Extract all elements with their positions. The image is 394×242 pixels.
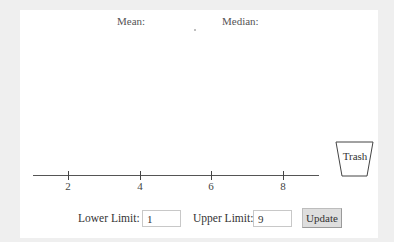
- lower-limit-input[interactable]: [142, 210, 181, 227]
- lower-limit-label: Lower Limit:: [78, 212, 140, 224]
- trash-bin[interactable]: Trash: [335, 141, 375, 178]
- tick-label-2: 2: [58, 180, 78, 192]
- median-label: Median:: [222, 15, 259, 27]
- stray-dot: [194, 29, 196, 31]
- number-line-panel: [20, 10, 378, 238]
- tick-8: [283, 171, 284, 180]
- tick-label-4: 4: [130, 180, 150, 192]
- tick-6: [211, 171, 212, 180]
- trash-label: Trash: [335, 150, 375, 162]
- update-button[interactable]: Update: [302, 208, 342, 228]
- tick-2: [68, 171, 69, 180]
- upper-limit-input[interactable]: [253, 210, 292, 227]
- tick-label-8: 8: [273, 180, 293, 192]
- tick-4: [140, 171, 141, 180]
- upper-limit-label: Upper Limit:: [193, 212, 253, 224]
- tick-label-6: 6: [201, 180, 221, 192]
- axis-line: [33, 175, 319, 176]
- mean-label: Mean:: [117, 15, 145, 27]
